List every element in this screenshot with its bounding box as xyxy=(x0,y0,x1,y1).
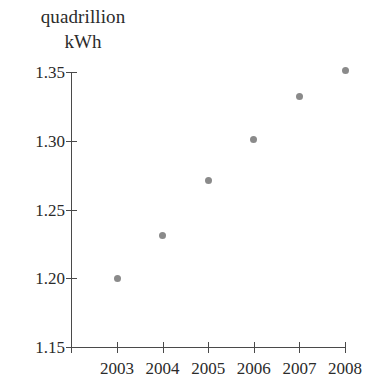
data-point xyxy=(296,93,303,100)
y-axis-title-line-2: kWh xyxy=(8,29,158,54)
y-axis-tick-label: 1.15 xyxy=(5,339,65,356)
y-axis-tick-label: 1.20 xyxy=(5,270,65,287)
y-axis-tick xyxy=(66,141,77,142)
scatter-chart: quadrillion kWh 1.151.201.251.301.35 200… xyxy=(0,0,377,392)
data-point xyxy=(342,67,349,74)
y-axis-tick-label: 1.35 xyxy=(5,64,65,81)
x-axis-tick xyxy=(345,342,346,353)
y-axis-tick xyxy=(66,210,77,211)
x-axis-tick xyxy=(299,342,300,353)
x-axis-tick xyxy=(254,342,255,353)
data-point xyxy=(114,275,121,282)
data-point xyxy=(250,136,257,143)
x-axis-tick xyxy=(117,342,118,353)
x-axis-tick xyxy=(208,342,209,353)
x-axis-tick-label: 2008 xyxy=(315,360,375,377)
y-axis-tick xyxy=(66,72,77,73)
data-point xyxy=(205,177,212,184)
x-axis-tick xyxy=(163,342,164,353)
x-axis-tick xyxy=(71,342,72,353)
y-axis-tick-label: 1.25 xyxy=(5,202,65,219)
y-axis-tick-label: 1.30 xyxy=(5,133,65,150)
y-axis-title: quadrillion kWh xyxy=(8,4,158,54)
y-axis-tick xyxy=(66,278,77,279)
y-axis-title-line-1: quadrillion xyxy=(8,4,158,29)
data-point xyxy=(159,232,166,239)
